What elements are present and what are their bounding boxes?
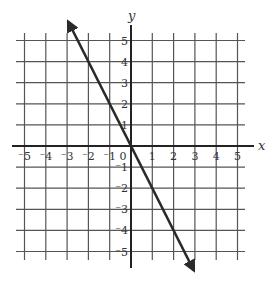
- x-tick-label: ⁻1: [103, 150, 116, 163]
- y-tick-label: ⁻3: [115, 203, 128, 216]
- y-tick-label: ⁻4: [115, 224, 128, 237]
- x-tick-label: 1: [149, 150, 156, 163]
- y-tick-label: ⁻5: [115, 246, 128, 259]
- x-tick-label: ⁻5: [18, 150, 31, 163]
- y-tick-label: ⁻2: [115, 182, 128, 195]
- x-tick-label: ⁻2: [82, 150, 95, 163]
- x-tick-label: ⁻3: [61, 150, 74, 163]
- y-tick-label: 5: [121, 35, 128, 48]
- y-tick-label: ⁻1: [115, 161, 128, 174]
- y-tick-label: 3: [121, 77, 128, 90]
- x-tick-label: 2: [170, 150, 177, 163]
- x-tick-label: 5: [234, 150, 241, 163]
- coordinate-plane: ⁻5⁻4⁻3⁻2⁻101234554321⁻1⁻2⁻3⁻4⁻5 x y: [0, 0, 276, 282]
- x-tick-label: 4: [213, 150, 220, 163]
- x-tick-label: 3: [191, 150, 198, 163]
- y-tick-label: 4: [121, 56, 128, 69]
- y-tick-label: 2: [121, 98, 128, 111]
- y-axis-label: y: [127, 8, 136, 23]
- x-axis-label: x: [258, 138, 266, 153]
- x-tick-label: ⁻4: [39, 150, 52, 163]
